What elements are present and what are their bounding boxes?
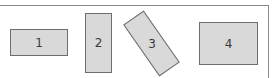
rectangle-4-label: 4 bbox=[225, 37, 233, 51]
rectangle-3-label: 3 bbox=[148, 37, 156, 51]
frame-top-border bbox=[0, 5, 268, 6]
rectangle-4: 4 bbox=[199, 22, 258, 65]
frame-right-border bbox=[268, 5, 269, 78]
rectangle-2: 2 bbox=[85, 13, 112, 73]
rectangle-1: 1 bbox=[10, 29, 68, 56]
rectangle-1-label: 1 bbox=[35, 36, 43, 50]
rectangle-2-label: 2 bbox=[95, 36, 103, 50]
rectangle-3-rotated: 3 bbox=[123, 11, 180, 77]
